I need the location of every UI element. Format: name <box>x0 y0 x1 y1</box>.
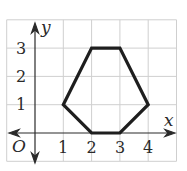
x-tick-3: 3 <box>115 138 125 157</box>
x-tick-4: 4 <box>143 138 153 157</box>
origin-label: O <box>12 136 26 156</box>
y-tick-3: 3 <box>16 39 26 58</box>
y-tick-2: 2 <box>16 67 26 86</box>
y-axis <box>32 23 39 163</box>
x-tick-2: 2 <box>87 138 97 157</box>
coordinate-plane: y x O 1 2 3 4 1 2 3 <box>0 0 187 171</box>
hexagon-shape <box>63 48 148 133</box>
x-axis-label: x <box>164 110 174 130</box>
x-tick-1: 1 <box>58 138 68 157</box>
y-tick-1: 1 <box>16 95 26 114</box>
y-axis-label: y <box>40 17 51 37</box>
